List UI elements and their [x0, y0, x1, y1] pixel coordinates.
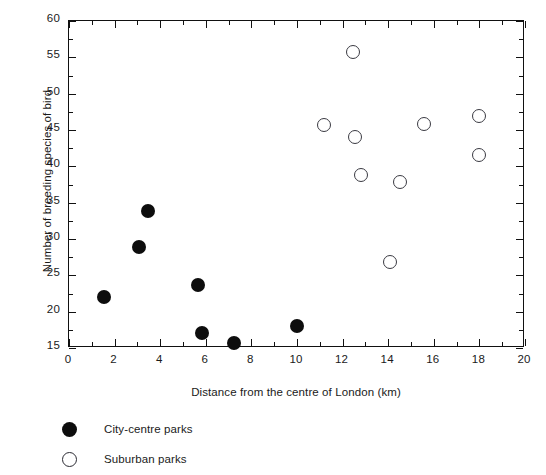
- axis-tick: [343, 21, 344, 28]
- axis-tick: [519, 112, 523, 113]
- axis-tick: [92, 342, 93, 346]
- chart-legend: City-centre parksSuburban parks: [62, 414, 193, 474]
- axis-tick: [525, 21, 526, 28]
- axis-tick: [457, 21, 458, 25]
- axis-tick: [69, 221, 73, 222]
- axis-tick: [69, 257, 73, 258]
- x-tick-label: 16: [413, 353, 453, 365]
- axis-tick: [519, 294, 523, 295]
- x-axis-title: Distance from the centre of London (km): [68, 386, 524, 398]
- axis-tick: [516, 130, 523, 131]
- y-tick-label: 30: [20, 230, 60, 242]
- y-tick-label: 15: [20, 339, 60, 351]
- axis-tick: [229, 21, 230, 25]
- axis-tick: [320, 21, 321, 25]
- axis-tick: [183, 342, 184, 346]
- data-point: [348, 130, 362, 144]
- data-point: [290, 319, 304, 333]
- y-tick-label: 55: [20, 48, 60, 60]
- axis-tick: [297, 21, 298, 28]
- axis-tick: [69, 239, 76, 240]
- axis-tick: [343, 339, 344, 346]
- axis-tick: [69, 76, 73, 77]
- axis-tick: [519, 221, 523, 222]
- axis-tick: [434, 21, 435, 28]
- axis-tick: [274, 342, 275, 346]
- data-point: [227, 336, 241, 350]
- data-point: [191, 278, 205, 292]
- axis-tick: [516, 239, 523, 240]
- legend-label: Suburban parks: [104, 453, 187, 465]
- axis-tick: [388, 339, 389, 346]
- open-circle-icon: [62, 452, 77, 467]
- axis-tick: [519, 185, 523, 186]
- axis-tick: [519, 330, 523, 331]
- axis-tick: [69, 294, 73, 295]
- data-point: [195, 326, 209, 340]
- axis-tick: [479, 339, 480, 346]
- axis-tick: [251, 21, 252, 28]
- axis-tick: [206, 21, 207, 28]
- y-axis-title: Number of breeding species of bird: [41, 31, 53, 331]
- x-tick-label: 0: [48, 353, 88, 365]
- y-tick-label: 25: [20, 266, 60, 278]
- filled-circle-icon: [62, 422, 77, 437]
- axis-tick: [411, 342, 412, 346]
- data-point: [317, 118, 331, 132]
- axis-tick: [519, 39, 523, 40]
- x-tick-label: 6: [185, 353, 225, 365]
- axis-tick: [365, 342, 366, 346]
- legend-item: City-centre parks: [62, 414, 193, 444]
- data-point: [472, 148, 486, 162]
- axis-tick: [69, 112, 73, 113]
- data-point: [97, 290, 111, 304]
- y-tick-label: 35: [20, 194, 60, 206]
- axis-tick: [516, 21, 523, 22]
- data-point: [393, 175, 407, 189]
- axis-tick: [525, 339, 526, 346]
- axis-tick: [69, 203, 76, 204]
- axis-tick: [69, 339, 70, 346]
- axis-tick: [137, 21, 138, 25]
- axis-tick: [160, 21, 161, 28]
- axis-tick: [516, 312, 523, 313]
- axis-tick: [206, 339, 207, 346]
- axis-tick: [365, 21, 366, 25]
- axis-tick: [516, 166, 523, 167]
- x-tick-label: 10: [276, 353, 316, 365]
- axis-tick: [516, 275, 523, 276]
- x-tick-label: 2: [94, 353, 134, 365]
- data-point: [472, 109, 486, 123]
- y-tick-label: 40: [20, 157, 60, 169]
- axis-tick: [137, 342, 138, 346]
- x-tick-label: 4: [139, 353, 179, 365]
- axis-tick: [457, 342, 458, 346]
- axis-tick: [69, 130, 76, 131]
- axis-tick: [519, 76, 523, 77]
- axis-tick: [434, 339, 435, 346]
- data-point: [354, 168, 368, 182]
- axis-tick: [115, 21, 116, 28]
- axis-tick: [69, 275, 76, 276]
- axis-tick: [160, 339, 161, 346]
- axis-tick: [69, 348, 76, 349]
- axis-tick: [69, 185, 73, 186]
- axis-tick: [320, 342, 321, 346]
- data-point: [132, 240, 146, 254]
- axis-tick: [519, 257, 523, 258]
- axis-tick: [516, 348, 523, 349]
- axis-tick: [516, 203, 523, 204]
- x-tick-label: 12: [322, 353, 362, 365]
- axis-tick: [69, 148, 73, 149]
- axis-tick: [274, 21, 275, 25]
- axis-tick: [69, 57, 76, 58]
- axis-tick: [115, 339, 116, 346]
- x-tick-label: 20: [504, 353, 544, 365]
- scatter-plot-figure: Number of breeding species of bird Dista…: [0, 0, 546, 475]
- x-tick-label: 8: [230, 353, 270, 365]
- axis-tick: [183, 21, 184, 25]
- plot-area: [68, 20, 524, 347]
- axis-tick: [479, 21, 480, 28]
- y-tick-label: 50: [20, 85, 60, 97]
- axis-tick: [411, 21, 412, 25]
